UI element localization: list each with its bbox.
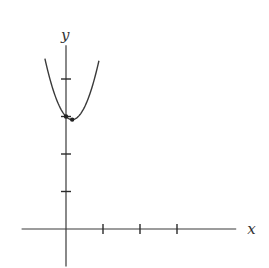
axis-ticks — [61, 79, 177, 234]
y-intercept-point — [64, 114, 68, 118]
parabola-graph: x y — [0, 0, 269, 268]
x-axis-label: x — [247, 220, 256, 238]
parabola-curve — [45, 59, 99, 120]
vertex-point — [70, 117, 74, 121]
y-axis-label: y — [60, 26, 70, 44]
